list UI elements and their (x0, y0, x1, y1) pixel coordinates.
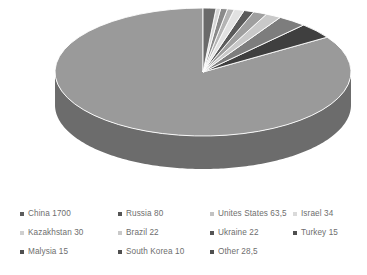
chart-legend: China 1700Russia 80Unites States 63,5Isr… (0, 202, 367, 275)
pie-plot-area (0, 0, 367, 200)
legend-marker-swatch (293, 212, 297, 216)
legend-item[interactable]: Malysia 15 (20, 242, 68, 261)
legend-row: Kazakhstan 30Brazil 22Ukraine 22Turkey 1… (0, 223, 367, 242)
legend-item-label: Turkey 15 (301, 227, 338, 238)
legend-item[interactable]: South Korea 10 (118, 242, 184, 261)
legend-marker-swatch (20, 231, 24, 235)
legend-marker-swatch (210, 231, 214, 235)
legend-marker-swatch (118, 250, 122, 254)
legend-item[interactable]: Israel 34 (293, 204, 333, 223)
legend-item-label: Other 28,5 (218, 246, 258, 257)
legend-item-label: Unites States 63,5 (218, 208, 287, 219)
pie-chart-figure: China 1700Russia 80Unites States 63,5Isr… (0, 0, 367, 275)
pie-chart-graphic (0, 0, 367, 200)
legend-item-label: South Korea 10 (126, 246, 184, 257)
legend-item[interactable]: Turkey 15 (293, 223, 338, 242)
legend-marker-swatch (210, 250, 214, 254)
legend-item-label: Kazakhstan 30 (28, 227, 83, 238)
legend-item[interactable]: China 1700 (20, 204, 71, 223)
legend-row: China 1700Russia 80Unites States 63,5Isr… (0, 204, 367, 223)
legend-marker-swatch (118, 231, 122, 235)
legend-item-label: Brazil 22 (126, 227, 159, 238)
legend-item-label: China 1700 (28, 208, 71, 219)
legend-marker-swatch (118, 212, 122, 216)
legend-item[interactable]: Russia 80 (118, 204, 163, 223)
legend-item[interactable]: Unites States 63,5 (210, 204, 287, 223)
legend-item-label: Israel 34 (301, 208, 333, 219)
legend-row: Malysia 15South Korea 10Other 28,5 (0, 242, 367, 261)
legend-item-label: Ukraine 22 (218, 227, 259, 238)
legend-item-label: Russia 80 (126, 208, 163, 219)
legend-marker-swatch (293, 231, 297, 235)
legend-item[interactable]: Kazakhstan 30 (20, 223, 83, 242)
legend-item[interactable]: Other 28,5 (210, 242, 258, 261)
legend-marker-swatch (210, 212, 214, 216)
legend-marker-swatch (20, 212, 24, 216)
legend-item[interactable]: Brazil 22 (118, 223, 159, 242)
legend-item[interactable]: Ukraine 22 (210, 223, 259, 242)
legend-marker-swatch (20, 250, 24, 254)
legend-item-label: Malysia 15 (28, 246, 68, 257)
pie-top-surface-group (55, 8, 351, 136)
